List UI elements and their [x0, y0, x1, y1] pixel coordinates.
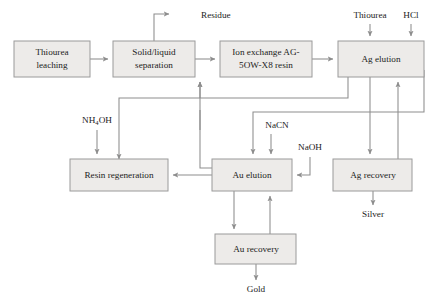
node-ag-elution[interactable]: Ag elution — [338, 41, 424, 77]
stream-label-residue: Residue — [201, 10, 231, 20]
node-au-recovery[interactable]: Au recovery — [215, 234, 296, 264]
node-thiourea-leaching[interactable]: Thiourea leaching — [14, 41, 90, 77]
stream-label-silver: Silver — [362, 209, 384, 219]
node-label-line1: Thiourea — [35, 47, 68, 57]
stream-label-thiourea: Thiourea — [353, 10, 386, 20]
node-label-line1: Solid/liquid — [132, 47, 176, 57]
stream-label-nacn: NaCN — [265, 120, 289, 130]
node-label-line1: Ion exchange AG- — [232, 47, 299, 57]
process-flowchart: Thiourea leaching Solid/liquid separatio… — [0, 0, 428, 306]
node-label-line1: Ag elution — [361, 54, 400, 64]
connector-naoh-to-au-elution — [297, 157, 310, 175]
node-label-line2: leaching — [36, 60, 68, 70]
box-layer: Thiourea leaching Solid/liquid separatio… — [14, 41, 424, 264]
node-label-line1: Ag recovery — [350, 170, 396, 180]
connector-au-elution-to-ion-exchange-seg — [200, 82, 212, 168]
stream-label-hcl: HCl — [403, 10, 419, 20]
node-resin-regeneration[interactable]: Resin regeneration — [70, 159, 168, 191]
node-label-line2: 5OW-X8 resin — [239, 60, 293, 70]
stream-label-nh4oh: NH4OH — [82, 115, 112, 126]
node-ag-recovery[interactable]: Ag recovery — [333, 159, 412, 191]
node-label-line1: Au recovery — [233, 244, 279, 254]
node-label-line2: separation — [135, 60, 173, 70]
node-label-line1: Resin regeneration — [84, 170, 154, 180]
nh4oh-prefix: NH — [82, 115, 96, 125]
stream-label-naoh: NaOH — [298, 142, 322, 152]
node-solid-liquid-separation[interactable]: Solid/liquid separation — [113, 41, 195, 77]
node-label-line1: Au elution — [232, 170, 271, 180]
node-ion-exchange-resin[interactable]: Ion exchange AG- 5OW-X8 resin — [220, 41, 312, 77]
node-au-elution[interactable]: Au elution — [212, 159, 292, 191]
nh4oh-suffix: OH — [99, 115, 113, 125]
connector-separation-to-residue — [154, 14, 169, 41]
stream-label-gold: Gold — [247, 284, 266, 294]
